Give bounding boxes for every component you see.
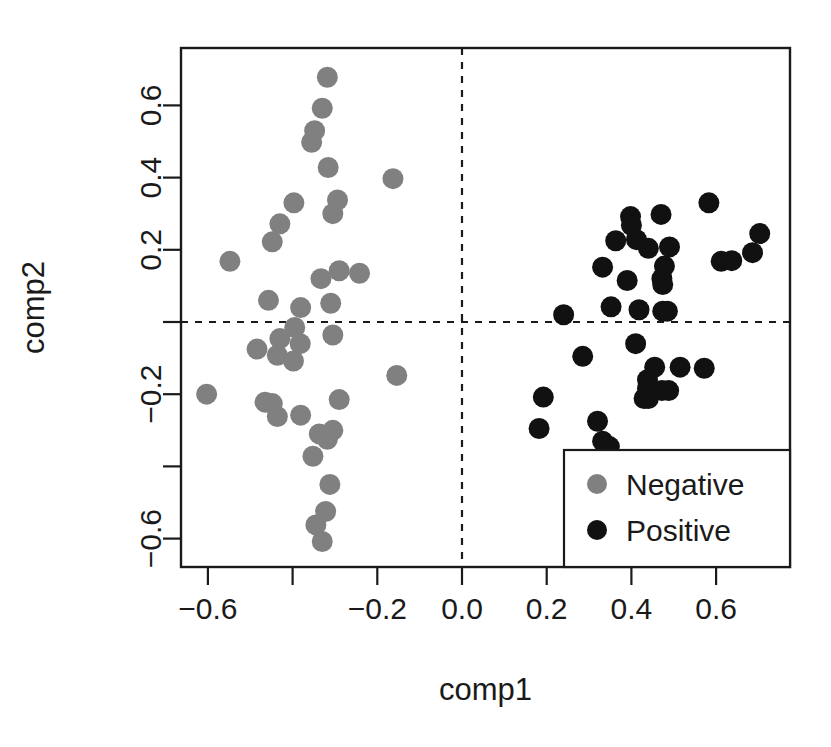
data-point	[382, 168, 403, 189]
data-point	[721, 250, 742, 271]
data-point	[638, 238, 659, 259]
x-tick-label: 0.4	[611, 592, 653, 625]
scatter-plot-figure: −0.6−0.20.00.20.40.60.60.40.2−0.2−0.6com…	[0, 0, 831, 747]
data-point	[310, 268, 331, 289]
x-tick-label: 0.6	[695, 592, 737, 625]
data-point	[638, 388, 659, 409]
data-point	[659, 236, 680, 257]
data-point	[658, 380, 679, 401]
data-point	[625, 333, 646, 354]
data-point	[196, 384, 217, 405]
data-point	[301, 132, 322, 153]
x-axis-title: comp1	[439, 672, 532, 707]
legend-label-positive: Positive	[626, 514, 731, 547]
plot-canvas: −0.6−0.20.00.20.40.60.60.40.2−0.2−0.6com…	[0, 0, 831, 747]
y-axis-title: comp2	[16, 261, 51, 354]
x-tick-label: −0.6	[178, 592, 237, 625]
data-point	[698, 192, 719, 213]
data-point	[533, 387, 554, 408]
series-positive	[529, 192, 771, 457]
legend-marker-positive	[587, 520, 607, 540]
data-point	[318, 157, 339, 178]
data-point	[592, 257, 613, 278]
x-axis: −0.6−0.20.00.20.40.6	[178, 567, 737, 625]
data-point	[629, 299, 650, 320]
y-axis: 0.60.40.2−0.2−0.6	[135, 85, 182, 569]
data-point	[262, 231, 283, 252]
legend-marker-negative	[587, 474, 607, 494]
legend-label-negative: Negative	[626, 468, 744, 501]
data-point	[290, 297, 311, 318]
y-tick-label: 0.6	[135, 85, 168, 127]
data-point	[329, 260, 350, 281]
data-point	[317, 67, 338, 88]
y-tick-label: 0.2	[135, 229, 168, 271]
data-point	[529, 418, 550, 439]
data-point	[283, 192, 304, 213]
data-point	[319, 474, 340, 495]
y-tick-label: 0.4	[135, 157, 168, 199]
data-point	[267, 406, 288, 427]
data-point	[322, 420, 343, 441]
data-point	[258, 290, 279, 311]
y-tick-label: −0.2	[135, 365, 168, 424]
data-point	[651, 204, 672, 225]
data-point	[386, 365, 407, 386]
data-point	[657, 301, 678, 322]
data-point	[219, 251, 240, 272]
data-point	[269, 213, 290, 234]
x-tick-label: 0.0	[441, 592, 483, 625]
data-point	[320, 293, 341, 314]
data-point	[322, 203, 343, 224]
data-point	[283, 350, 304, 371]
x-tick-label: 0.2	[526, 592, 568, 625]
data-point	[587, 411, 608, 432]
data-point	[605, 230, 626, 251]
data-point	[312, 531, 333, 552]
data-point	[349, 263, 370, 284]
data-point	[617, 270, 638, 291]
data-point	[312, 98, 333, 119]
data-point	[572, 346, 593, 367]
legend: NegativePositive	[564, 450, 790, 567]
data-point	[322, 325, 343, 346]
data-point	[749, 223, 770, 244]
data-point	[302, 446, 323, 467]
data-point	[329, 389, 350, 410]
data-point	[553, 304, 574, 325]
data-point	[670, 357, 691, 378]
data-point	[290, 405, 311, 426]
data-point	[652, 274, 673, 295]
data-point	[601, 296, 622, 317]
y-tick-label: −0.6	[135, 509, 168, 568]
data-point	[247, 339, 268, 360]
series-negative	[196, 67, 407, 552]
x-tick-label: −0.2	[348, 592, 407, 625]
data-point	[742, 242, 763, 263]
data-point	[694, 358, 715, 379]
